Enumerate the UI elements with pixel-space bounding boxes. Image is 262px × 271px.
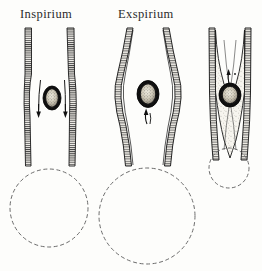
foreign-body-seed-2 (137, 80, 159, 108)
airflow-arrow-up-exspirium (144, 109, 151, 125)
anatomy-drawing (0, 0, 262, 271)
figure-inspirium (10, 28, 88, 247)
figure-exspirium (99, 28, 195, 264)
bronchus-wall-left-1 (24, 28, 31, 166)
lung-volume-circle-exspirium (99, 168, 195, 264)
lung-volume-circle-inspirium (10, 169, 88, 247)
airflow-arrow-down-right (63, 104, 68, 118)
foreign-body-seed-1 (43, 86, 61, 110)
airflow-arrow-down-left (36, 104, 41, 118)
bronchus-wall-right-1 (67, 28, 76, 166)
illustration-plate: Inspirium Exspirium (0, 0, 262, 271)
figure-obstruction (209, 28, 251, 188)
